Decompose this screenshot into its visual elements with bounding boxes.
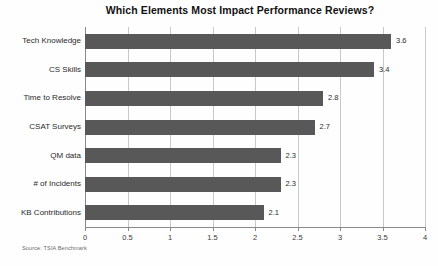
- y-axis-category-label: Time to Resolve: [24, 93, 82, 103]
- x-tick-mark: [170, 227, 171, 231]
- bar: [85, 62, 374, 77]
- x-tick-label: 2.5: [285, 233, 311, 242]
- x-tick-label: 2: [242, 233, 268, 242]
- x-tick-mark: [298, 227, 299, 231]
- y-axis-category-label: # of Incidents: [33, 179, 81, 189]
- plot-area: 3.63.42.82.72.32.32.1: [85, 27, 425, 227]
- y-axis-category-label: KB Contributions: [21, 208, 81, 218]
- y-axis-category-label: CSAT Surveys: [29, 122, 81, 132]
- bar: [85, 120, 315, 135]
- bar: [85, 34, 391, 49]
- x-tick-mark: [383, 227, 384, 231]
- x-tick-mark: [85, 227, 86, 231]
- x-tick-mark: [255, 227, 256, 231]
- source-note: Source: TSIA Benchmark: [22, 245, 87, 251]
- x-tick-mark: [425, 227, 426, 231]
- x-tick-label: 1: [157, 233, 183, 242]
- x-tick-mark: [340, 227, 341, 231]
- x-tick-label: 3: [327, 233, 353, 242]
- bar: [85, 148, 281, 163]
- x-tick-mark: [213, 227, 214, 231]
- bar-chart: Which Elements Most Impact Performance R…: [0, 0, 438, 266]
- y-axis-category-label: Tech Knowledge: [22, 36, 81, 46]
- x-tick-label: 0.5: [115, 233, 141, 242]
- bar-value-label: 2.3: [286, 179, 296, 189]
- bar-value-label: 3.4: [379, 65, 389, 75]
- bar-value-label: 2.7: [320, 122, 330, 132]
- gridline: [383, 27, 384, 227]
- x-tick-label: 0: [72, 233, 98, 242]
- x-tick-label: 3.5: [370, 233, 396, 242]
- bar-value-label: 2.3: [286, 151, 296, 161]
- gridline: [340, 27, 341, 227]
- bar: [85, 205, 264, 220]
- bar: [85, 91, 323, 106]
- chart-title: Which Elements Most Impact Performance R…: [60, 4, 420, 16]
- x-tick-label: 4: [412, 233, 438, 242]
- bar-value-label: 2.8: [328, 93, 338, 103]
- y-axis-labels: Tech KnowledgeCS SkillsTime to ResolveCS…: [0, 27, 81, 227]
- x-tick-label: 1.5: [200, 233, 226, 242]
- bar-value-label: 3.6: [396, 36, 406, 46]
- bar: [85, 177, 281, 192]
- y-axis-category-label: QM data: [50, 151, 81, 161]
- y-axis-category-label: CS Skills: [49, 65, 81, 75]
- x-tick-mark: [128, 227, 129, 231]
- bar-value-label: 2.1: [269, 208, 279, 218]
- gridline: [425, 27, 426, 227]
